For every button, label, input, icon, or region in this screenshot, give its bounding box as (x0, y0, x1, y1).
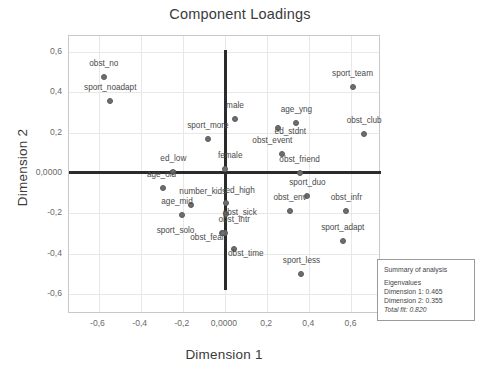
data-point[interactable] (293, 120, 299, 126)
data-point[interactable] (101, 74, 107, 80)
total-fit: Total fit: 0.820 (384, 305, 468, 314)
data-point[interactable] (297, 170, 303, 176)
x-tick-label: -0,4 (117, 318, 163, 328)
data-point[interactable] (179, 212, 185, 218)
data-point-label: number_kids (179, 188, 226, 196)
data-point-label: sport_duo (289, 179, 325, 187)
y-tick-label: 0,2 (16, 127, 62, 137)
data-point-label: sport_team (332, 70, 373, 78)
data-point-label: sport_solo (157, 227, 195, 235)
data-point[interactable] (232, 116, 238, 122)
data-point-label: obst_club (347, 117, 382, 125)
summary-box: Summary of analysis Eigenvalues Dimensio… (377, 259, 475, 321)
data-point[interactable] (298, 271, 304, 277)
reference-line-horizontal (69, 171, 381, 174)
data-point-label: obst_infr (331, 194, 362, 202)
data-point-label: ed_low (160, 155, 186, 163)
data-point[interactable] (205, 136, 211, 142)
data-point-label: sport_noadapt (84, 84, 136, 92)
x-tick-label: -0,6 (75, 318, 121, 328)
chart-container: Component Loadings Dimension 2 Dimension… (0, 0, 480, 373)
dimension-1-eigenvalue: Dimension 1: 0.465 (384, 287, 468, 296)
eigenvalues-heading: Eigenvalues (384, 278, 468, 287)
x-tick-label: 0,2 (243, 318, 289, 328)
x-tick-label: 0,0000 (201, 318, 247, 328)
data-point-label: age_yng (281, 106, 312, 114)
data-point[interactable] (107, 98, 113, 104)
data-point-label: sport_less (283, 257, 320, 265)
data-point-label: male (226, 102, 244, 110)
data-point[interactable] (340, 238, 346, 244)
data-point[interactable] (160, 185, 166, 191)
data-point[interactable] (222, 166, 228, 172)
data-point-label: female (218, 152, 243, 160)
y-tick-label: 0,6 (16, 46, 62, 56)
data-point-label: sport_more (187, 122, 228, 130)
data-point[interactable] (361, 131, 367, 137)
data-point-label: ed_high (226, 187, 255, 195)
y-tick-label: 0,0000 (16, 167, 62, 177)
summary-heading: Summary of analysis (384, 265, 468, 274)
page-title: Component Loadings (0, 6, 480, 22)
data-point-label: age_old (147, 171, 176, 179)
data-point-label: obst_fear (190, 234, 224, 242)
x-tick-label: -0,2 (159, 318, 205, 328)
data-point-label: obst_env (273, 194, 306, 202)
data-point-label: sport_adapt (321, 224, 364, 232)
x-tick-label: 0,4 (285, 318, 331, 328)
x-axis-title: Dimension 1 (68, 347, 380, 362)
data-point-label: obst_time (228, 250, 264, 258)
gridline-horizontal (69, 294, 379, 295)
data-point[interactable] (350, 84, 356, 90)
data-point-label: age_mid (161, 198, 192, 206)
x-tick-label: 0,6 (327, 318, 373, 328)
y-tick-label: 0,4 (16, 86, 62, 96)
y-tick-label: -0,2 (16, 207, 62, 217)
y-tick-label: -0,4 (16, 248, 62, 258)
data-point-label: obst_intr (219, 216, 250, 224)
data-point[interactable] (223, 200, 229, 206)
data-point-label: obst_friend (279, 156, 320, 164)
data-point-label: obst_no (89, 60, 118, 68)
data-point-label: obst_event (252, 137, 292, 145)
dimension-2-eigenvalue: Dimension 2: 0.355 (384, 296, 468, 305)
y-tick-label: -0,6 (16, 288, 62, 298)
plot-area: obst_nosport_noadaptsport_teamage_yngobs… (68, 35, 380, 313)
